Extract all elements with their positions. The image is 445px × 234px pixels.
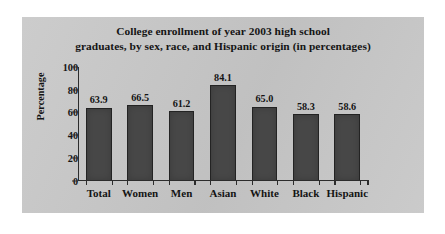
x-tick-mark [252,180,253,185]
x-tick-mark [194,180,195,185]
x-tick-mark [360,180,361,185]
x-tick-mark [334,180,335,185]
x-tick-label: Women [122,187,158,199]
x-tick-mark [112,180,113,185]
x-tick-mark [236,180,237,185]
x-tick-label: Asian [210,187,237,199]
x-tick-mark [210,180,211,185]
x-tick-mark [293,180,294,185]
chart-page: College enrollment of year 2003 high sch… [0,0,445,234]
x-tick-label: Total [87,187,111,199]
x-tick-mark [86,180,87,185]
x-tick-mark [319,180,320,185]
x-tick-mark [127,180,128,185]
x-tick-mark [367,180,368,185]
x-tick-label: Men [171,187,192,199]
x-tick-label: Black [292,187,319,199]
x-tick-mark [153,180,154,185]
x-tick-mark [277,180,278,185]
x-tick-mark [169,180,170,185]
x-tick-label: Hispanic [326,187,368,199]
y-axis-line [78,67,79,181]
x-tick-label: White [250,187,279,199]
x-axis-labels: TotalWomenMenAsianWhiteBlackHispanic [22,187,424,207]
chart-panel: College enrollment of year 2003 high sch… [22,17,424,213]
